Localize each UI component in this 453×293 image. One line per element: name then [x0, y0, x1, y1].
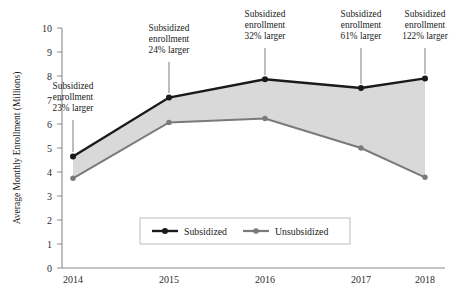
- annotation-2014: Subsidized enrollment 23% larger: [53, 81, 95, 113]
- y-tick-label-6: 6: [47, 119, 52, 130]
- annotation-2014-line1: Subsidized: [53, 81, 94, 91]
- legend-swatch-unsubsidized-marker: [253, 228, 259, 234]
- annotation-2017-line2: enrollment: [341, 20, 382, 30]
- annotation-2018-line1: Subsidized: [405, 9, 446, 19]
- annotation-2017-line3: 61% larger: [341, 31, 383, 41]
- annotation-2018: Subsidized enrollment 122% larger: [402, 9, 448, 41]
- annotation-2014-line2: enrollment: [53, 92, 94, 102]
- annotation-2016-line1: Subsidized: [245, 9, 286, 19]
- annotation-2017: Subsidized enrollment 61% larger: [341, 9, 383, 41]
- annotation-2015: Subsidized enrollment 24% larger: [149, 23, 191, 55]
- legend-swatch-subsidized-marker: [162, 228, 168, 234]
- y-tick-label-5: 5: [47, 143, 52, 154]
- y-axis-title: Average Monthly Enrollment (Millions): [12, 72, 23, 225]
- x-tick-label-2018: 2018: [415, 274, 435, 285]
- y-tick-label-9: 9: [47, 47, 52, 58]
- y-tick-label-10: 10: [42, 23, 52, 34]
- y-tick-label-7: 7: [47, 95, 52, 106]
- x-tick-label-2015: 2015: [159, 274, 179, 285]
- chart-legend: Subsidized Unsubsidized: [140, 218, 350, 244]
- annotation-2016: Subsidized enrollment 32% larger: [245, 9, 287, 41]
- y-tick-label-1: 1: [47, 239, 52, 250]
- annotation-2014-line3: 23% larger: [53, 103, 95, 113]
- y-tick-label-4: 4: [47, 167, 52, 178]
- legend-label-subsidized: Subsidized: [184, 226, 227, 237]
- annotation-2018-line3: 122% larger: [402, 31, 448, 41]
- annotation-2017-line1: Subsidized: [341, 9, 382, 19]
- x-tick-label-2017: 2017: [351, 274, 371, 285]
- annotation-2016-line2: enrollment: [245, 20, 286, 30]
- legend-label-unsubsidized: Unsubsidized: [275, 226, 328, 237]
- y-tick-label-2: 2: [47, 215, 52, 226]
- annotation-2016-line3: 32% larger: [245, 31, 287, 41]
- y-tick-label-0: 0: [47, 263, 52, 274]
- annotation-2015-line3: 24% larger: [149, 45, 191, 55]
- y-tick-label-3: 3: [47, 191, 52, 202]
- chart-svg: 10 9 8 7 6 5 4 3 2 1 0 Average Monthly E…: [0, 0, 453, 293]
- chart-figure: 10 9 8 7 6 5 4 3 2 1 0 Average Monthly E…: [0, 0, 453, 293]
- y-tick-label-8: 8: [47, 71, 52, 82]
- annotation-2018-line2: enrollment: [405, 20, 446, 30]
- annotation-2015-line2: enrollment: [149, 34, 190, 44]
- annotation-2015-line1: Subsidized: [149, 23, 190, 33]
- y-axis-ticks: [57, 28, 62, 268]
- x-tick-label-2014: 2014: [63, 274, 83, 285]
- x-tick-label-2016: 2016: [255, 274, 275, 285]
